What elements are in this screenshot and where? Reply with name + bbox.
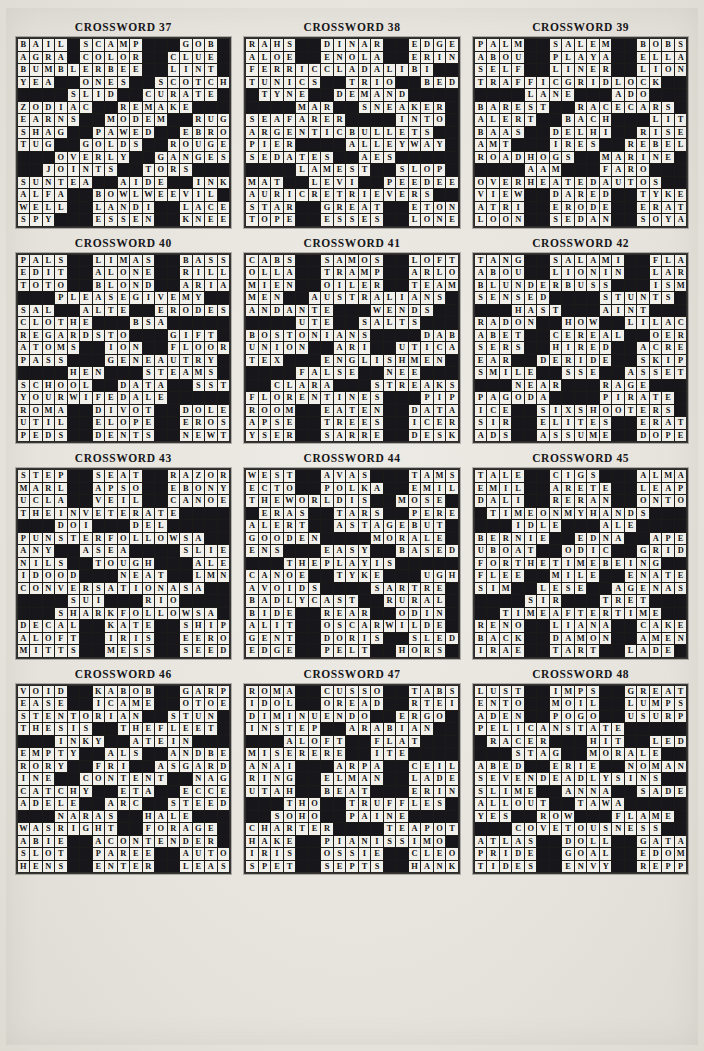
grid-letter-cell: A (475, 798, 487, 810)
grid-letter-cell: F (396, 798, 408, 810)
grid-letter-cell: A (562, 255, 574, 267)
grid-letter-cell: O (284, 342, 296, 354)
grid-letter-cell: A (105, 798, 117, 810)
grid-letter-cell: I (371, 77, 383, 89)
grid-letter-cell: R (193, 417, 205, 429)
grid-letter-cell: R (421, 786, 433, 798)
grid-block-cell (68, 52, 80, 64)
grid-block-cell (675, 811, 687, 823)
grid-letter-cell: C (296, 77, 308, 89)
grid-letter-cell: E (218, 495, 230, 507)
grid-letter-cell: D (675, 545, 687, 557)
grid-block-cell (93, 380, 105, 392)
grid-letter-cell: L (512, 483, 524, 495)
grid-letter-cell: B (434, 686, 446, 698)
grid-letter-cell: S (359, 330, 371, 342)
grid-letter-cell: O (30, 405, 42, 417)
grid-letter-cell: N (384, 811, 396, 823)
grid-letter-cell: A (43, 77, 55, 89)
grid-block-cell (80, 483, 92, 495)
grid-letter-cell: S (446, 686, 458, 698)
grid-letter-cell: I (500, 786, 512, 798)
grid-letter-cell: S (271, 545, 283, 557)
grid-letter-cell: L (130, 189, 142, 201)
grid-block-cell (487, 823, 499, 835)
grid-letter-cell: I (346, 177, 358, 189)
grid-letter-cell: G (575, 470, 587, 482)
grid-letter-cell: P (346, 811, 358, 823)
grid-block-cell (80, 189, 92, 201)
grid-letter-cell: E (575, 139, 587, 151)
grid-letter-cell: X (562, 405, 574, 417)
grid-block-cell (246, 558, 258, 570)
grid-letter-cell: A (80, 305, 92, 317)
grid-letter-cell: I (180, 64, 192, 76)
grid-letter-cell: S (218, 305, 230, 317)
grid-letter-cell: A (205, 861, 217, 873)
grid-letter-cell: E (396, 177, 408, 189)
grid-letter-cell: P (93, 848, 105, 860)
grid-letter-cell: D (446, 545, 458, 557)
grid-letter-cell: A (259, 836, 271, 848)
grid-letter-cell: M (246, 292, 258, 304)
grid-block-cell (68, 139, 80, 151)
grid-block-cell (662, 177, 674, 189)
grid-letter-cell: D (30, 267, 42, 279)
grid-letter-cell: D (93, 430, 105, 442)
grid-letter-cell: B (487, 330, 499, 342)
grid-letter-cell: M (371, 533, 383, 545)
grid-block-cell (334, 139, 346, 151)
grid-block-cell (359, 595, 371, 607)
grid-letter-cell: L (409, 164, 421, 176)
grid-letter-cell: R (475, 620, 487, 632)
grid-letter-cell: Y (271, 89, 283, 101)
grid-block-cell (321, 139, 333, 151)
grid-letter-cell: I (284, 711, 296, 723)
grid-letter-cell: S (650, 773, 662, 785)
grid-letter-cell: N (550, 723, 562, 735)
grid-letter-cell: L (43, 495, 55, 507)
grid-letter-cell: E (637, 202, 649, 214)
grid-block-cell (155, 861, 167, 873)
grid-letter-cell: D (650, 645, 662, 657)
grid-block-cell (105, 786, 117, 798)
grid-letter-cell: S (271, 470, 283, 482)
grid-letter-cell: T (475, 470, 487, 482)
grid-letter-cell: E (168, 292, 180, 304)
grid-letter-cell: A (130, 255, 142, 267)
grid-block-cell (93, 177, 105, 189)
grid-letter-cell: A (309, 164, 321, 176)
grid-block-cell (80, 280, 92, 292)
grid-letter-cell: A (68, 102, 80, 114)
grid-block-cell (93, 723, 105, 735)
grid-letter-cell: I (562, 620, 574, 632)
puzzle-grid: RAHSDINAREDGEALOEENOLAERINFERRICCLADALIB… (246, 39, 458, 226)
grid-letter-cell: R (637, 127, 649, 139)
grid-block-cell (168, 280, 180, 292)
grid-letter-cell: A (105, 686, 117, 698)
grid-letter-cell: I (271, 620, 283, 632)
grid-letter-cell: X (271, 355, 283, 367)
grid-letter-cell: T (118, 861, 130, 873)
grid-letter-cell: O (80, 711, 92, 723)
grid-block-cell (334, 77, 346, 89)
grid-letter-cell: R (271, 508, 283, 520)
grid-letter-cell: I (205, 620, 217, 632)
grid-letter-cell: C (246, 570, 258, 582)
grid-letter-cell: A (600, 508, 612, 520)
grid-letter-cell: R (421, 52, 433, 64)
grid-letter-cell: S (55, 723, 67, 735)
grid-letter-cell: L (512, 367, 524, 379)
grid-letter-cell: E (637, 139, 649, 151)
grid-block-cell (143, 77, 155, 89)
grid-letter-cell: E (612, 723, 624, 735)
grid-letter-cell: R (168, 470, 180, 482)
grid-letter-cell: A (409, 267, 421, 279)
grid-block-cell (446, 748, 458, 760)
grid-letter-cell: D (446, 77, 458, 89)
grid-block-cell (30, 736, 42, 748)
grid-letter-cell: E (600, 202, 612, 214)
grid-letter-cell: L (625, 317, 637, 329)
grid-letter-cell: I (487, 189, 499, 201)
grid-block-cell (30, 292, 42, 304)
